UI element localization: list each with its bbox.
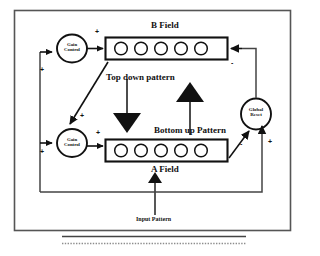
sign-left-bus-top-plus: + — [40, 66, 44, 73]
top-down-pattern-label: Top down pattern — [106, 73, 175, 82]
arrow-a-field-to-global-reset — [229, 131, 249, 158]
a-field-box — [106, 140, 228, 162]
global-reset-line2: Reset — [241, 112, 271, 117]
arrowhead-top-down-pattern — [113, 113, 141, 133]
sign-a-gain-in-plus: + — [40, 148, 44, 155]
b-field-label: B Field — [151, 21, 179, 30]
sign-diagonal-plus: + — [80, 112, 84, 119]
sign-b-gain-out-plus: + — [95, 28, 99, 35]
gain-control-bottom-text: Gain Control — [57, 137, 87, 147]
b-field-box — [106, 38, 228, 60]
gain-control-top-text: Gain Control — [57, 42, 87, 52]
gain-control-top-line2: Control — [57, 47, 87, 52]
arrowhead-bottom-up-pattern — [176, 82, 204, 102]
sign-a-reset-minus: - — [240, 140, 242, 147]
line-global-reset-to-b-field — [242, 49, 256, 99]
sign-b-reset-minus: - — [231, 59, 233, 66]
gain-control-bottom-line2: Control — [57, 142, 87, 147]
global-reset-text: Global Reset — [241, 107, 271, 118]
sign-a-gain-out-plus: + — [96, 129, 100, 136]
input-pattern-label: Input Pattern — [136, 216, 171, 222]
bottom-up-pattern-label: Bottom up Pattern — [154, 126, 226, 135]
a-field-label: A Field — [151, 165, 179, 174]
sign-reset-in-plus: + — [268, 138, 272, 145]
arrow-b-field-to-gain-bottom — [70, 62, 108, 124]
